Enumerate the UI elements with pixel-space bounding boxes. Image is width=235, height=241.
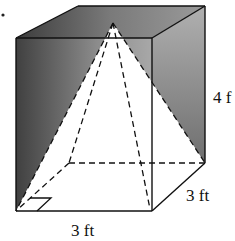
prism-pyramid-diagram: 4 f 3 ft 3 ft: [0, 0, 235, 241]
depth-label: 3 ft: [186, 186, 209, 205]
width-label: 3 ft: [71, 221, 94, 240]
bullet-dot: [1, 13, 4, 16]
height-label: 4 f: [213, 88, 232, 107]
